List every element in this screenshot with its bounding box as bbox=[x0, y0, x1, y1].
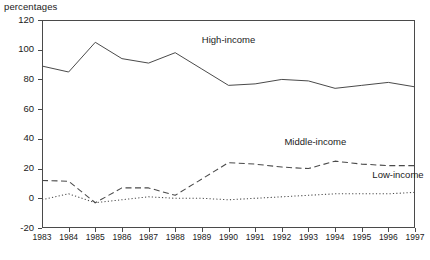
x-tick-mark bbox=[229, 228, 230, 232]
x-tick-mark bbox=[175, 228, 176, 232]
x-tick-label: 1991 bbox=[246, 232, 265, 242]
y-tick-mark bbox=[38, 228, 42, 229]
x-tick-mark bbox=[122, 228, 123, 232]
y-tick-label: 120 bbox=[2, 14, 34, 25]
series-line-low-income bbox=[42, 192, 415, 202]
x-tick-mark bbox=[95, 228, 96, 232]
series-line-high-income bbox=[42, 42, 415, 88]
chart-root: percentages 120100806040200-20 198319841… bbox=[0, 0, 430, 260]
x-tick-label: 1987 bbox=[139, 232, 158, 242]
x-tick-label: 1992 bbox=[272, 232, 291, 242]
x-tick-mark bbox=[149, 228, 150, 232]
y-tick-label: -20 bbox=[2, 222, 34, 233]
y-tick-label: 60 bbox=[2, 103, 34, 114]
y-tick-label: 80 bbox=[2, 73, 34, 84]
x-tick-label: 1986 bbox=[112, 232, 131, 242]
series-line-middle-income bbox=[42, 161, 415, 203]
x-tick-label: 1989 bbox=[192, 232, 211, 242]
y-tick-label: 100 bbox=[2, 43, 34, 54]
y-tick-label: 20 bbox=[2, 162, 34, 173]
y-tick-label: 40 bbox=[2, 132, 34, 143]
series-label-high-income: High-income bbox=[202, 34, 255, 45]
series-label-middle-income: Middle-income bbox=[284, 136, 346, 147]
x-tick-label: 1990 bbox=[219, 232, 238, 242]
x-tick-label: 1996 bbox=[379, 232, 398, 242]
x-tick-mark bbox=[362, 228, 363, 232]
series-label-low-income: Low-income bbox=[372, 169, 423, 180]
x-tick-label: 1995 bbox=[352, 232, 371, 242]
x-tick-label: 1994 bbox=[326, 232, 345, 242]
series-layer bbox=[42, 20, 415, 228]
x-tick-mark bbox=[282, 228, 283, 232]
x-tick-mark bbox=[388, 228, 389, 232]
x-tick-mark bbox=[415, 228, 416, 232]
x-tick-label: 1988 bbox=[166, 232, 185, 242]
x-tick-label: 1983 bbox=[33, 232, 52, 242]
y-axis-title: percentages bbox=[4, 1, 57, 12]
x-tick-mark bbox=[202, 228, 203, 232]
x-tick-label: 1997 bbox=[406, 232, 425, 242]
x-tick-mark bbox=[255, 228, 256, 232]
x-tick-mark bbox=[69, 228, 70, 232]
x-tick-mark bbox=[335, 228, 336, 232]
x-tick-mark bbox=[308, 228, 309, 232]
y-tick-label: 0 bbox=[2, 192, 34, 203]
x-tick-label: 1984 bbox=[59, 232, 78, 242]
x-tick-label: 1993 bbox=[299, 232, 318, 242]
x-tick-label: 1985 bbox=[86, 232, 105, 242]
